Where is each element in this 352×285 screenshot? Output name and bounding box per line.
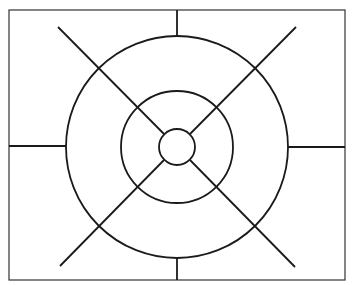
- line-diag-ne: [190, 27, 296, 134]
- diagram-canvas: [0, 0, 352, 285]
- radial-lines: [9, 10, 345, 280]
- frame: [9, 10, 345, 280]
- line-diag-sw: [60, 160, 164, 266]
- line-diag-nw: [58, 27, 164, 134]
- circle-inner: [159, 129, 195, 165]
- line-diag-se: [190, 160, 295, 267]
